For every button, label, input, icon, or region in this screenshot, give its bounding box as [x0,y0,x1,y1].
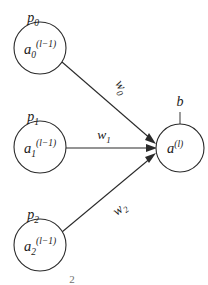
arrowhead-input1 [146,144,157,152]
weight-label-w0: w0 [110,77,132,98]
weight-label-w2: w2 [109,198,131,220]
weight-label-w1: w1 [97,127,111,145]
edge-input0-to-output [62,62,152,140]
input-node-1-label: p1 [26,109,39,127]
neuron-diagram: p0 a0(l−1) p1 a1(l−1) p2 a2(l−1) [0,0,208,285]
stray-mark-glyph: 2 [69,273,75,285]
edge-input2-to-output [62,157,152,232]
neuron-diagram-canvas: p0 a0(l−1) p1 a1(l−1) p2 a2(l−1) [0,0,208,285]
bias-label: b [177,94,184,109]
input-node-2-label: p2 [26,207,39,225]
input-node-0-label: p0 [26,10,39,28]
